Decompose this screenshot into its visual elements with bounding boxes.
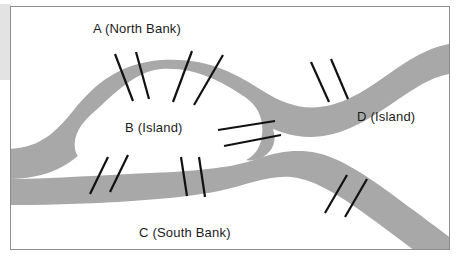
diagram-frame: A (North Bank) B (Island) C (South Bank)… [10, 6, 450, 250]
label-node-c: C (South Bank) [139, 225, 231, 240]
label-node-b: B (Island) [125, 120, 183, 135]
figure-canvas: A (North Bank) B (Island) C (South Bank)… [0, 0, 465, 261]
page-bleed-top-edge [0, 0, 465, 4]
label-node-a: A (North Bank) [93, 21, 181, 36]
konigsberg-map [11, 7, 449, 249]
label-node-d: D (Island) [357, 109, 415, 124]
bridge-3-a-to-d [311, 59, 348, 102]
